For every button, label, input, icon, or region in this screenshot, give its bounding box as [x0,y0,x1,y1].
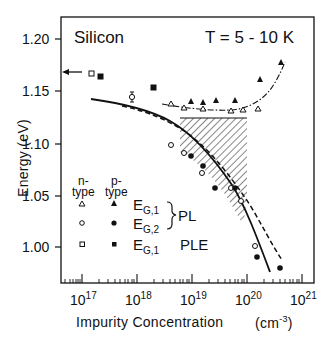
reference-arrow [62,69,82,75]
legend-eg1-ple: EG,1 [133,236,159,256]
y-axis-ticks [55,39,61,247]
dash-dot-curve [162,62,285,110]
chart-canvas [0,0,335,349]
y-tick-label: 1.20 [22,31,49,47]
y-axis-label: Energy (eV) [15,113,31,203]
legend-brace [167,202,176,229]
x-tick-label: 1020 [235,290,262,308]
legend-markers [79,200,117,247]
p-type-eg1-points [188,59,284,105]
x-axis-unit: (cm-3) [255,314,293,331]
y-tick-label: 1.15 [22,83,49,99]
x-tick-label: 1018 [125,290,152,308]
legend-eg1-pl: EG,1 [133,196,159,216]
temperature-annotation: T = 5 - 10 K [205,28,294,48]
legend-ple-label: PLE [180,236,208,253]
y-tick-label: 1.00 [22,239,49,255]
x-tick-label: 1021 [290,290,317,308]
x-tick-label: 1019 [180,290,207,308]
chart-title: Silicon [74,28,124,48]
errorbar-point [129,92,134,102]
legend-p-type-header: p-type [105,176,128,198]
x-axis-label: Impurity Concentration [76,314,223,330]
legend-pl-label: PL [178,207,196,224]
ple-points [89,71,156,90]
x-tick-label: 1017 [70,290,97,308]
x-axis-ticks [65,274,302,283]
legend-n-type-header: n-type [72,176,95,198]
legend-eg2-pl: EG,2 [133,215,159,235]
